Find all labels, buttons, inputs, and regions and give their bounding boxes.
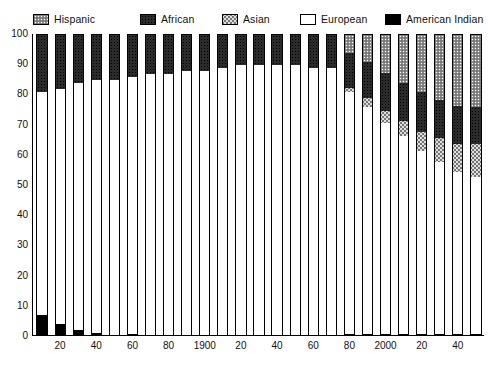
bar-1840[interactable] [91, 34, 102, 336]
bar-1950[interactable] [290, 34, 301, 336]
bar-segment-african [236, 35, 245, 65]
y-axis-tick-label: 70 [2, 120, 28, 130]
legend-swatch-hispanic-icon [33, 14, 49, 25]
bar-segment-european [146, 74, 155, 336]
bar-segment-amindian [345, 335, 354, 336]
bar-segment-hispanic [453, 35, 462, 106]
bar-segment-european [56, 89, 65, 325]
legend-item-asian[interactable]: Asian [222, 12, 270, 26]
bar-segment-hispanic [381, 35, 390, 73]
bar-segment-amindian [381, 335, 390, 336]
x-axis-tick-label: 60 [308, 341, 319, 351]
bar-2010[interactable] [398, 34, 409, 336]
legend-item-african[interactable]: African [140, 12, 194, 26]
bar-segment-african [417, 92, 426, 131]
bar-segment-european [128, 77, 137, 335]
bar-segment-african [309, 35, 318, 68]
bar-segment-african [146, 35, 155, 74]
chart-legend: HispanicAfricanAsianEuropeanAmerican Ind… [0, 0, 488, 28]
bar-segment-african [272, 35, 281, 65]
bar-1820[interactable] [55, 34, 66, 336]
bar-1920[interactable] [235, 34, 246, 336]
bar-2030[interactable] [434, 34, 445, 336]
bar-segment-european [164, 74, 173, 336]
bar-segment-amindian [74, 331, 83, 336]
bar-1850[interactable] [109, 34, 120, 336]
bar-segment-asian [399, 121, 408, 136]
bar-segment-european [218, 68, 227, 336]
bar-segment-european [417, 151, 426, 335]
y-axis-tick-label: 90 [2, 59, 28, 69]
bar-segment-hispanic [471, 35, 480, 107]
stacked-bar-chart: HispanicAfricanAsianEuropeanAmerican Ind… [0, 0, 488, 370]
x-axis-tick-label: 40 [272, 341, 283, 351]
bar-1930[interactable] [253, 34, 264, 336]
bar-2020[interactable] [416, 34, 427, 336]
legend-swatch-african-icon [140, 14, 156, 25]
x-axis-tick-label: 20 [416, 341, 427, 351]
bar-segment-european [309, 68, 318, 336]
x-axis-tick-label: 20 [235, 341, 246, 351]
bar-2050[interactable] [470, 34, 481, 336]
bar-1830[interactable] [73, 34, 84, 336]
bar-segment-hispanic [417, 35, 426, 92]
bar-segment-hispanic [363, 35, 372, 62]
bar-segment-african [254, 35, 263, 65]
bar-1970[interactable] [326, 34, 337, 336]
bar-1960[interactable] [308, 34, 319, 336]
bar-segment-african [471, 107, 480, 143]
bar-segment-asian [363, 98, 372, 107]
bar-segment-european [182, 71, 191, 336]
y-axis-tick-label: 50 [2, 180, 28, 190]
bar-1870[interactable] [145, 34, 156, 336]
bar-segment-african [92, 35, 101, 80]
x-axis-tick-label: 20 [55, 341, 66, 351]
bar-segment-european [110, 80, 119, 336]
bar-segment-african [363, 62, 372, 98]
legend-item-hispanic[interactable]: Hispanic [33, 12, 95, 26]
x-axis-tick-label: 80 [163, 341, 174, 351]
bar-segment-european [381, 123, 390, 336]
x-axis-tick-label: 40 [91, 341, 102, 351]
y-axis-tick-label: 30 [2, 240, 28, 250]
bar-2040[interactable] [452, 34, 463, 336]
bar-segment-amindian [417, 335, 426, 336]
bar-segment-asian [417, 132, 426, 152]
legend-swatch-asian-icon [222, 14, 238, 25]
legend-swatch-european-icon [300, 14, 316, 25]
bar-2000[interactable] [380, 34, 391, 336]
bar-segment-asian [453, 144, 462, 173]
bar-1810[interactable] [36, 34, 47, 336]
bar-segment-african [128, 35, 137, 77]
bar-segment-amindian [56, 325, 65, 336]
bar-segment-european [453, 172, 462, 334]
bar-1990[interactable] [362, 34, 373, 336]
bar-segment-african [345, 53, 354, 88]
bar-segment-european [399, 136, 408, 335]
bar-segment-amindian [128, 335, 137, 336]
bar-segment-african [74, 35, 83, 83]
bar-segment-african [182, 35, 191, 71]
legend-item-european[interactable]: European [300, 12, 367, 26]
bar-segment-european [272, 65, 281, 336]
bar-segment-european [435, 162, 444, 335]
bar-segment-african [200, 35, 209, 71]
bar-1890[interactable] [181, 34, 192, 336]
bar-segment-african [110, 35, 119, 80]
bar-segment-european [37, 92, 46, 315]
legend-label-european: European [321, 14, 367, 25]
bar-1940[interactable] [271, 34, 282, 336]
legend-item-amindian[interactable]: American Indian [385, 12, 483, 26]
bar-1880[interactable] [163, 34, 174, 336]
bar-1860[interactable] [127, 34, 138, 336]
bar-segment-african [291, 35, 300, 65]
bar-1910[interactable] [217, 34, 228, 336]
bar-segment-asian [471, 144, 480, 177]
bar-segment-amindian [363, 335, 372, 336]
bar-1980[interactable] [344, 34, 355, 336]
bar-1900[interactable] [199, 34, 210, 336]
bar-segment-hispanic [345, 35, 354, 53]
bar-segment-amindian [471, 335, 480, 336]
bar-segment-asian [435, 138, 444, 162]
bar-segment-amindian [37, 316, 46, 336]
